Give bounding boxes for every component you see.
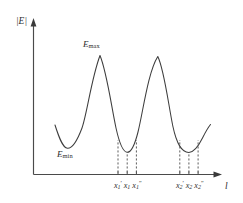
arrow-up-icon [31,18,37,27]
tick-label-prime: ″ [139,179,142,186]
e-min-label: Emin [57,150,73,160]
tick-label-x1-doubleprime: x1″ [129,180,145,190]
arrow-right-icon [214,171,223,177]
field-magnitude-curve [55,56,211,153]
tick-label-prime: ″ [201,179,204,186]
dashed-marker-group-2 [180,140,198,173]
e-max-label: Emax [83,40,100,50]
e-max-subscript: max [89,42,100,49]
curve-group [55,56,211,153]
x-axis-group [34,171,223,177]
x-axis-label: l [225,182,228,192]
y-axis-label: |E| [16,17,27,27]
field-magnitude-figure: |E| l Emax Emin x1′ x1 x1″ x2′ x2 x2″ [0,0,243,203]
y-axis-group [31,18,37,175]
figure-canvas [0,0,243,203]
tick-label-x2-doubleprime: x2″ [191,180,207,190]
e-min-subscript: min [63,152,73,159]
